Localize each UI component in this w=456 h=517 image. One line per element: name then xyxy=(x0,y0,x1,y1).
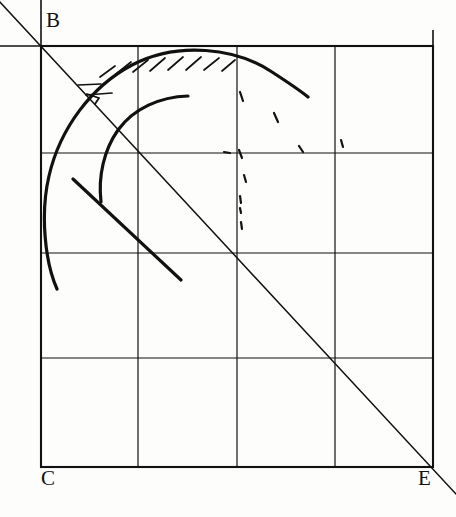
stray-mark-1 xyxy=(274,113,278,122)
hatch-mark-6 xyxy=(168,57,183,70)
vertex-label-B: B xyxy=(46,10,60,31)
stray-marks-group xyxy=(224,92,343,229)
hatch-mark-9 xyxy=(222,60,235,71)
stray-mark-3 xyxy=(299,146,303,152)
stray-mark-7 xyxy=(240,208,241,213)
vertex-label-C: C xyxy=(41,468,55,489)
diagonal-group xyxy=(0,0,456,494)
stray-mark-5 xyxy=(244,175,246,182)
diagonal-B-to-E xyxy=(0,0,456,494)
stray-mark-8 xyxy=(241,222,242,229)
stray-mark-2 xyxy=(239,150,242,158)
vertex-label-E: E xyxy=(418,468,431,489)
hatch-mark-8 xyxy=(204,58,219,70)
axis-extensions-group xyxy=(0,0,433,46)
geometric-figure xyxy=(0,0,456,517)
hatching-group xyxy=(78,57,235,95)
stray-mark-4 xyxy=(224,152,230,153)
hatch-mark-7 xyxy=(186,57,201,70)
stray-mark-6 xyxy=(240,196,241,203)
inner-curve xyxy=(100,96,188,202)
hatch-mark-0 xyxy=(78,84,101,85)
stray-mark-0 xyxy=(240,92,243,101)
straight-chord-stroke xyxy=(73,179,181,280)
stray-mark-9 xyxy=(341,140,343,147)
hatch-mark-5 xyxy=(150,58,165,71)
diagram-canvas: B C E xyxy=(0,0,456,517)
